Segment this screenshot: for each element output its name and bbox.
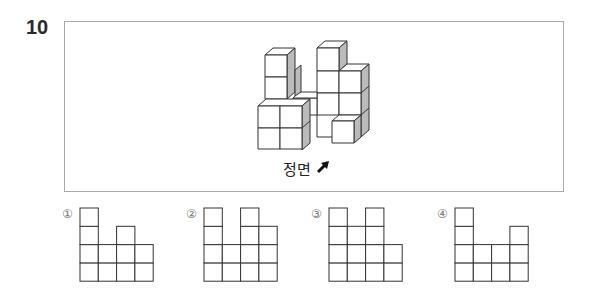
grid-cell: [259, 226, 277, 244]
grid-cell: [204, 226, 222, 244]
grid-cell: [510, 226, 528, 244]
grid-cell: [366, 263, 384, 281]
grid-cell: [329, 208, 347, 226]
arrow-up-right-icon: [316, 160, 330, 174]
grid-cell: [366, 244, 384, 262]
grid-cell: [455, 244, 473, 262]
grid-cell: [135, 263, 153, 281]
grid-cell: [492, 244, 510, 262]
grid-cell: [329, 244, 347, 262]
grid-cell: [241, 226, 259, 244]
grid-cell: [455, 226, 473, 244]
choice-number-3: ③: [311, 207, 322, 221]
grid-cell: [455, 263, 473, 281]
grid-cell: [117, 226, 135, 244]
question-number: 10: [26, 16, 48, 39]
grid-cell: [204, 244, 222, 262]
grid-cell: [510, 263, 528, 281]
grid-cell: [329, 263, 347, 281]
grid-cell: [204, 208, 222, 226]
grid-cell: [329, 226, 347, 244]
grid-cell: [259, 263, 277, 281]
grid-cell: [510, 244, 528, 262]
grid-cell: [473, 244, 491, 262]
grid-cell: [117, 244, 135, 262]
grid-cell: [80, 244, 98, 262]
grid-cell: [98, 263, 116, 281]
grid-cell: [241, 263, 259, 281]
choice-number-1: ①: [62, 207, 73, 221]
grid-cell: [222, 244, 240, 262]
grid-cell: [473, 263, 491, 281]
grid-cell: [117, 263, 135, 281]
grid-cell: [347, 226, 365, 244]
grid-cell: [384, 244, 402, 262]
choice-option-2[interactable]: [203, 207, 278, 282]
grid-cell: [366, 226, 384, 244]
grid-cell: [366, 208, 384, 226]
choice-option-1[interactable]: [79, 207, 154, 282]
grid-cell: [241, 208, 259, 226]
grid-cell: [80, 226, 98, 244]
cube-stack-figure: [255, 40, 375, 150]
grid-cell: [222, 263, 240, 281]
grid-cell: [80, 208, 98, 226]
grid-cell: [455, 208, 473, 226]
choice-number-4: ④: [437, 207, 448, 221]
grid-cell: [135, 244, 153, 262]
front-view-caption: 정면: [283, 158, 311, 179]
choice-option-3[interactable]: [328, 207, 403, 282]
grid-cell: [384, 263, 402, 281]
choice-number-2: ②: [186, 207, 197, 221]
grid-cell: [204, 263, 222, 281]
grid-cell: [259, 244, 277, 262]
choice-option-4[interactable]: [454, 207, 529, 282]
grid-cell: [347, 263, 365, 281]
grid-cell: [492, 263, 510, 281]
grid-cell: [80, 263, 98, 281]
grid-cell: [241, 244, 259, 262]
grid-cell: [347, 244, 365, 262]
grid-cell: [98, 244, 116, 262]
